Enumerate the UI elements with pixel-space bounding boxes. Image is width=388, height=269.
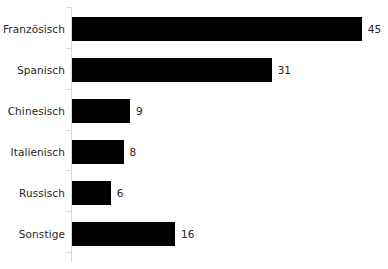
value-label-italienisch: 8 <box>130 140 137 164</box>
axis-tick <box>66 130 71 131</box>
bar-row: Italienisch 8 <box>0 140 388 164</box>
bar-spanisch <box>72 58 272 82</box>
axis-tick <box>66 7 71 8</box>
axis-tick <box>66 170 71 171</box>
axis-tick <box>66 211 71 212</box>
bar-row: Chinesisch 9 <box>0 99 388 123</box>
bar-franzoesisch <box>72 17 362 41</box>
axis-tick <box>66 48 71 49</box>
bar-sonstige <box>72 222 175 246</box>
category-label-chinesisch: Chinesisch <box>8 99 65 123</box>
axis-tick <box>66 89 71 90</box>
bar-chart: Französisch 45 Spanisch 31 Chinesisch 9 … <box>0 0 388 269</box>
value-label-spanisch: 31 <box>278 58 291 82</box>
category-label-italienisch: Italienisch <box>10 140 65 164</box>
bar-row: Sonstige 16 <box>0 222 388 246</box>
value-label-franzoesisch: 45 <box>368 17 381 41</box>
value-label-sonstige: 16 <box>181 222 194 246</box>
value-label-chinesisch: 9 <box>136 99 143 123</box>
category-label-franzoesisch: Französisch <box>3 17 65 41</box>
bar-russisch <box>72 181 111 205</box>
bar-row: Russisch 6 <box>0 181 388 205</box>
bar-chinesisch <box>72 99 130 123</box>
value-label-russisch: 6 <box>117 181 124 205</box>
bar-row: Französisch 45 <box>0 17 388 41</box>
axis-tick <box>66 252 71 253</box>
category-label-sonstige: Sonstige <box>19 222 65 246</box>
bar-row: Spanisch 31 <box>0 58 388 82</box>
bar-italienisch <box>72 140 124 164</box>
category-label-russisch: Russisch <box>19 181 65 205</box>
category-label-spanisch: Spanisch <box>17 58 65 82</box>
